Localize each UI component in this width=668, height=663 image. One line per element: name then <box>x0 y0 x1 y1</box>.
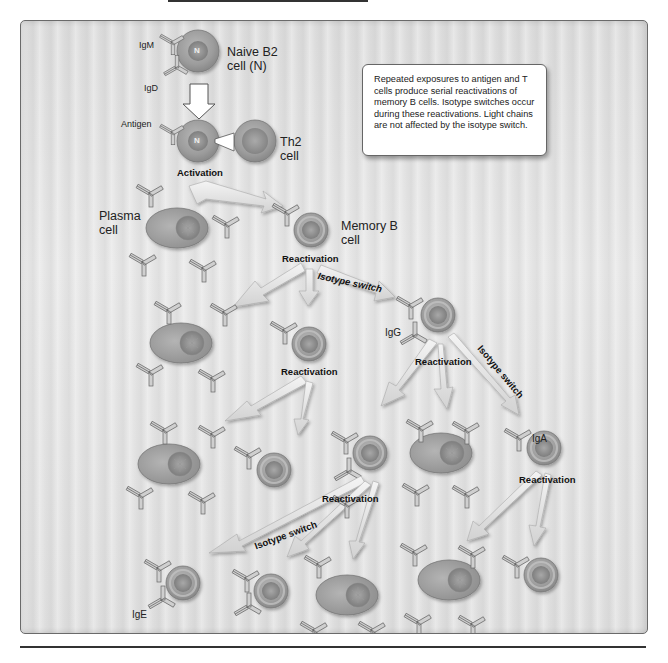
footer-rule <box>20 646 646 648</box>
plasma-cell-label-1: Plasma <box>99 209 141 223</box>
naive-cell-label-1: Naive B2 <box>227 45 278 59</box>
activated-nucleus-label: N <box>194 136 200 145</box>
igg-label: IgG <box>385 327 401 338</box>
explanation-callout: Repeated exposures to antigen and T cell… <box>362 64 547 156</box>
memory-cell-label-2: cell <box>341 233 360 247</box>
th2-cell <box>234 120 276 162</box>
naive-nucleus-label: N <box>194 46 200 55</box>
th2-label-2: cell <box>280 149 299 163</box>
plasma-cell-label-2: cell <box>99 223 118 237</box>
reactivation-label-2: Reactivation <box>281 366 338 377</box>
reactivation-label-4: Reactivation <box>519 474 576 485</box>
memory-cell-label-1: Memory B <box>341 219 398 233</box>
reactivation-label-1: Reactivation <box>282 253 339 264</box>
reactivation-label-5: Reactivation <box>322 493 379 504</box>
ige-memory-cell <box>166 566 200 600</box>
naive-cell-label-2: cell (N) <box>227 59 267 73</box>
diagram-artwork <box>21 21 647 633</box>
diagram-panel: IgM IgD Naive B2 cell (N) N Antigen N Th… <box>20 20 648 634</box>
igd-label: IgD <box>144 83 158 93</box>
header-rule <box>168 0 368 2</box>
memory-b-cell <box>294 213 328 247</box>
igm-label: IgM <box>139 40 154 50</box>
th2-label-1: Th2 <box>280 135 302 149</box>
activation-label: Activation <box>177 167 223 178</box>
ige-label: IgE <box>132 609 147 620</box>
reactivation-label-3: Reactivation <box>415 356 472 367</box>
iga-label: IgA <box>532 433 547 444</box>
igg-memory-cell <box>421 298 455 332</box>
antigen-label: Antigen <box>121 119 152 129</box>
